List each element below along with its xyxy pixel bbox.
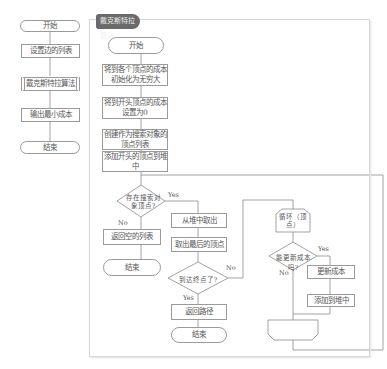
- output-label: 输出最小成本: [30, 110, 72, 120]
- update-cost-node: 更新成本: [307, 265, 355, 279]
- update-cost-label: 更新成本: [317, 267, 345, 277]
- set-start-cost-node: 将到开头顶点的成本设置为0: [102, 97, 168, 119]
- end-bottom-label: 结束: [192, 330, 206, 340]
- reached-yes-label: Yes: [183, 294, 194, 302]
- can-update-no-label: No: [279, 269, 289, 277]
- return-empty-label: 返回空的列表: [111, 232, 153, 242]
- main-start-node: 开始: [20, 20, 80, 32]
- pop-heap-label: 从堆中取出: [182, 216, 217, 226]
- output-node: 输出最小成本: [21, 108, 80, 122]
- add-heap-node: 添加到堆中: [307, 294, 355, 307]
- main-end-label: 结束: [43, 143, 57, 153]
- main-end-node: 结束: [20, 141, 80, 154]
- set-edges-label: 设置边的列表: [30, 46, 72, 56]
- create-list-label: 创建作为搜索对象的顶点列表: [103, 130, 167, 150]
- init-cost-node: 将到各个顶点的成本初始化为无穷大: [102, 64, 168, 86]
- main-start-label: 开始: [43, 21, 57, 31]
- dijkstra-subprocess-node: 戴克斯特拉算法: [21, 77, 80, 91]
- take-last-label: 取出最后的顶点: [175, 240, 224, 250]
- return-empty-node: 返回空的列表: [103, 229, 161, 245]
- end-left-node: 结束: [103, 259, 161, 276]
- loop-start-label: 循环（顶点）: [276, 213, 310, 229]
- pop-heap-node: 从堆中取出: [171, 213, 227, 228]
- panel-start-node: 开始: [108, 37, 164, 54]
- has-target-label: 存在搜索对象顶点?: [123, 194, 163, 210]
- set-edges-node: 设置边的列表: [21, 44, 80, 58]
- add-start-label: 添加开头的顶点到堆中: [103, 152, 167, 172]
- return-path-label: 返回路径: [185, 307, 213, 317]
- add-start-node: 添加开头的顶点到堆中: [102, 151, 168, 172]
- create-list-node: 创建作为搜索对象的顶点列表: [102, 129, 168, 150]
- take-last-node: 取出最后的顶点: [171, 237, 227, 252]
- has-target-yes-label: Yes: [168, 191, 179, 199]
- can-update-yes-label: Yes: [318, 245, 329, 253]
- set-start-cost-label: 将到开头顶点的成本设置为0: [103, 98, 167, 118]
- has-target-no-label: No: [118, 219, 128, 227]
- reached-label: 到达终点了?: [176, 274, 220, 284]
- dijkstra-label: 戴克斯特拉算法: [26, 79, 75, 89]
- end-bottom-node: 结束: [171, 327, 227, 343]
- init-cost-label: 将到各个顶点的成本初始化为无穷大: [103, 65, 167, 85]
- reached-no-label: No: [226, 264, 236, 272]
- panel-title: 戴克斯特拉算法: [96, 14, 140, 29]
- return-path-node: 返回路径: [171, 304, 227, 320]
- panel-start-label: 开始: [129, 41, 143, 51]
- end-left-label: 结束: [125, 263, 139, 273]
- add-heap-label: 添加到堆中: [314, 296, 349, 306]
